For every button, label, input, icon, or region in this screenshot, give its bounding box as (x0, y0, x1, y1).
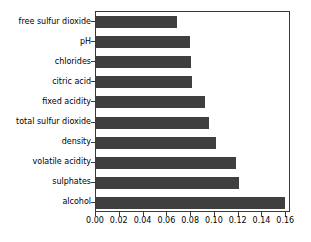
x-axis-tick-mark (261, 212, 262, 216)
y-axis-tick-mark (91, 142, 95, 143)
y-axis-tick-mark (91, 162, 95, 163)
y-axis-tick-mark (91, 41, 95, 42)
x-axis-tick-mark (285, 212, 286, 216)
y-axis-tick-mark (91, 81, 95, 82)
x-axis-tick-mark (166, 212, 167, 216)
x-axis-tick-label: 0.04 (134, 216, 152, 225)
bar (96, 76, 192, 88)
x-axis-tick-mark (119, 212, 120, 216)
y-axis-tick-label: alcohol (0, 197, 91, 206)
y-axis-tick-label: sulphates (0, 177, 91, 186)
y-axis-tick-mark (91, 21, 95, 22)
x-axis-tick-mark (214, 212, 215, 216)
x-axis-tick-label: 0.02 (110, 216, 128, 225)
x-axis-tick-label: 0.00 (86, 216, 104, 225)
y-axis-tick-mark (91, 122, 95, 123)
y-axis-tick-label: volatile acidity (0, 157, 91, 166)
y-axis-tick-label: total sulfur dioxide (0, 117, 91, 126)
bar (96, 117, 209, 129)
feature-importance-bar-chart: free sulfur dioxidepHchloridescitric aci… (0, 0, 311, 242)
bars-layer (96, 12, 289, 211)
x-axis-tick-label: 0.12 (229, 216, 247, 225)
bar (96, 177, 239, 189)
x-axis-tick-mark (95, 212, 96, 216)
x-axis-tick-mark (190, 212, 191, 216)
y-axis-tick-label: density (0, 137, 91, 146)
bar (96, 197, 285, 209)
y-axis-tick-mark (91, 101, 95, 102)
y-axis-tick-label: chlorides (0, 57, 91, 66)
y-axis-tick-mark (91, 182, 95, 183)
y-axis-category-labels: free sulfur dioxidepHchloridescitric aci… (0, 11, 91, 212)
bar (96, 137, 216, 149)
y-axis-tick-label: citric acid (0, 77, 91, 86)
bar (96, 96, 205, 108)
bar (96, 16, 177, 28)
x-axis-tick-mark (238, 212, 239, 216)
y-axis-tick-mark (91, 202, 95, 203)
y-axis-tick-label: pH (0, 37, 91, 46)
bar (96, 56, 191, 68)
x-axis-tick-label: 0.08 (181, 216, 199, 225)
bar (96, 36, 190, 48)
x-axis-tick-label: 0.10 (205, 216, 223, 225)
y-axis-tick-label: free sulfur dioxide (0, 17, 91, 26)
x-axis-tick-label: 0.16 (276, 216, 294, 225)
bar (96, 157, 236, 169)
plot-area (95, 11, 290, 212)
x-axis-tick-mark (143, 212, 144, 216)
x-axis-tick-label: 0.06 (157, 216, 175, 225)
y-axis-tick-mark (91, 61, 95, 62)
y-axis-tick-label: fixed acidity (0, 97, 91, 106)
x-axis-tick-label: 0.14 (253, 216, 271, 225)
x-axis-ticks: 0.000.020.040.060.080.100.120.140.16 (95, 212, 290, 242)
